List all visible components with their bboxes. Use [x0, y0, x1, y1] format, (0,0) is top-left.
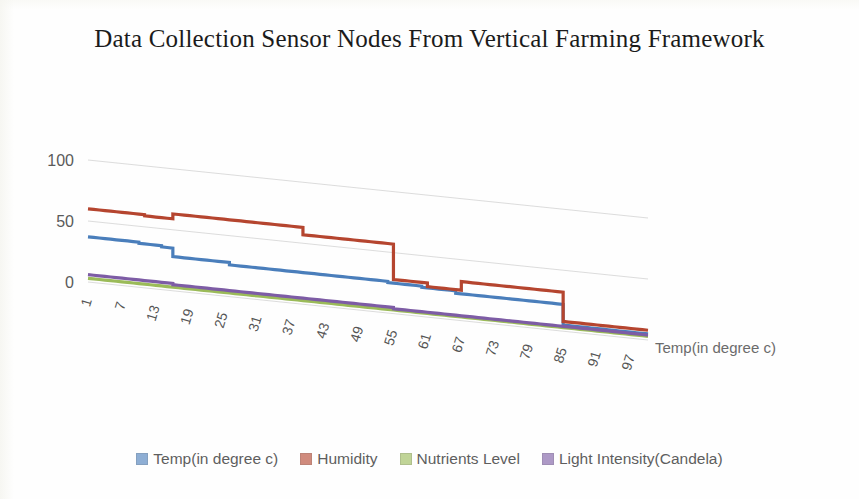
y-axis-tick-labels: 050100: [47, 152, 74, 291]
series-line-humidity: [88, 209, 648, 330]
chart-title: Data Collection Sensor Nodes From Vertic…: [0, 22, 859, 55]
gridline: [88, 160, 648, 218]
legend-item[interactable]: Humidity: [300, 450, 377, 468]
x-axis-tick-label: 91: [584, 349, 604, 369]
y-axis-tick-label: 50: [56, 213, 74, 230]
legend-swatch-icon: [136, 453, 148, 465]
legend-item[interactable]: Temp(in degree c): [136, 450, 278, 468]
series-group: [88, 209, 648, 337]
legend-label: Light Intensity(Candela): [559, 450, 723, 468]
legend-label: Humidity: [317, 450, 377, 468]
legend-swatch-icon: [400, 453, 412, 465]
x-axis-tick-label: 19: [177, 307, 197, 327]
x-axis-tick-label: 49: [347, 324, 367, 344]
x-axis-tick-label: 79: [516, 342, 536, 362]
x-axis-tick-label: 67: [448, 335, 468, 355]
y-axis-tick-label: 100: [47, 152, 74, 169]
x-axis-tick-label: 7: [111, 300, 129, 312]
chart-legend: Temp(in degree c)HumidityNutrients Level…: [0, 450, 859, 468]
x-axis-tick-label: 25: [211, 310, 231, 330]
x-axis-tick-label: 1: [77, 296, 95, 308]
x-axis-tick-label: 85: [550, 345, 570, 365]
x-axis-title: Temp(in degree c): [655, 339, 776, 356]
legend-item[interactable]: Light Intensity(Candela): [542, 450, 723, 468]
legend-label: Temp(in degree c): [153, 450, 278, 468]
legend-item[interactable]: Nutrients Level: [400, 450, 520, 468]
legend-swatch-icon: [542, 453, 554, 465]
x-axis-tick-label: 61: [414, 331, 434, 351]
x-axis-tick-label: 43: [313, 321, 333, 341]
x-axis-tick-label: 73: [482, 338, 502, 358]
y-axis-tick-label: 0: [65, 274, 74, 291]
x-axis-tick-label: 13: [143, 303, 163, 323]
legend-swatch-icon: [300, 453, 312, 465]
x-axis-tick-label: 37: [279, 317, 299, 337]
chart-plot-area: 050100 17131925313743495561677379859197 …: [0, 118, 859, 408]
line-chart-svg: 050100 17131925313743495561677379859197 …: [0, 118, 859, 408]
x-axis-tick-label: 55: [380, 328, 400, 348]
x-axis-tick-label: 31: [245, 314, 265, 334]
x-axis-tick-label: 97: [618, 352, 638, 372]
legend-label: Nutrients Level: [417, 450, 520, 468]
